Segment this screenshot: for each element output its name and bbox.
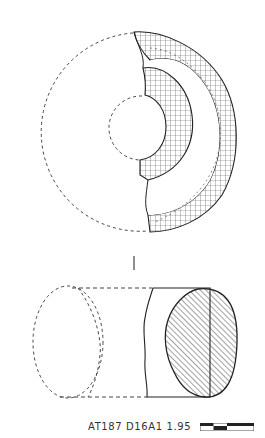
specimen-caption: AT187 D16A1 1.95 bbox=[88, 421, 191, 432]
profile-view bbox=[33, 286, 237, 398]
plan-view bbox=[41, 32, 236, 232]
inner-dashed-outline bbox=[109, 96, 142, 160]
outer-dashed-outline bbox=[41, 33, 148, 231]
artifact-drawing bbox=[0, 0, 265, 438]
scale-bar bbox=[200, 423, 254, 431]
profile-dashed-end bbox=[33, 286, 103, 398]
